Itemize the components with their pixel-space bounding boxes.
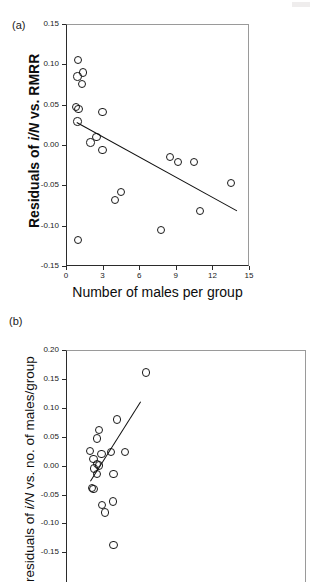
data-point bbox=[74, 105, 82, 113]
panel-a-yticklabel-1: 0.10 bbox=[30, 60, 59, 68]
panel-a-xtick-4 bbox=[212, 266, 213, 270]
panel-b-ytick-7 bbox=[62, 552, 66, 553]
panel-a-xtick-2 bbox=[139, 266, 140, 270]
panel-a-ytick-3 bbox=[62, 145, 66, 146]
data-point bbox=[117, 188, 125, 196]
panel-a-ytick-4 bbox=[62, 185, 66, 186]
panel-a-xtick-0 bbox=[66, 266, 67, 270]
panel-b-ytick-4 bbox=[62, 466, 66, 467]
panel-a-xticklabel-0: 0 bbox=[56, 272, 76, 280]
panel-a-ytick-0 bbox=[62, 24, 66, 25]
panel-b-yticklabel-3: 0.05 bbox=[30, 433, 59, 441]
panel-a-label: (a) bbox=[12, 19, 25, 31]
figure-container: (a) Residuals of i/N vs. RMRR 0.15 0.10 … bbox=[0, 0, 319, 582]
panel-b-ytick-3 bbox=[62, 437, 66, 438]
panel-b-ytick-5 bbox=[62, 495, 66, 496]
panel-b: (b) residuals of i/N vs. no. of males/gr… bbox=[0, 300, 319, 582]
data-point bbox=[227, 179, 235, 187]
panel-a-xtick-3 bbox=[176, 266, 177, 270]
panel-a-xticklabel-1: 3 bbox=[93, 272, 113, 280]
data-point bbox=[113, 415, 121, 423]
data-point bbox=[74, 56, 82, 64]
panel-a-xtick-5 bbox=[249, 266, 250, 270]
data-point bbox=[98, 108, 106, 116]
panel-a-yticklabel-4: -0.05 bbox=[28, 181, 59, 189]
panel-a-yticklabel-5: -0.10 bbox=[28, 222, 59, 230]
data-point bbox=[79, 68, 87, 76]
panel-a-xticklabel-4: 12 bbox=[202, 272, 222, 280]
data-point bbox=[93, 434, 101, 442]
panel-a-yticklabel-3: 0.00 bbox=[30, 141, 59, 149]
data-point bbox=[98, 146, 106, 154]
panel-a-yticklabel-2: 0.05 bbox=[30, 101, 59, 109]
panel-b-yticklabel-0: 0.20 bbox=[30, 346, 59, 354]
panel-b-yticklabel-2: 0.10 bbox=[30, 404, 59, 412]
panel-b-yticklabel-4: 0.00 bbox=[30, 462, 59, 470]
panel-a-xtick-1 bbox=[103, 266, 104, 270]
panel-b-label: (b) bbox=[9, 315, 22, 327]
shared-x-axis-title: Number of males per group bbox=[66, 284, 249, 300]
data-point bbox=[95, 426, 103, 434]
panel-a-xticklabel-3: 9 bbox=[166, 272, 186, 280]
panel-b-yticklabel-5: -0.05 bbox=[28, 491, 59, 499]
panel-b-yticklabel-6: -0.10 bbox=[28, 519, 59, 527]
data-point bbox=[166, 153, 174, 161]
panel-b-ytick-0 bbox=[62, 350, 66, 351]
panel-b-yticklabel-7: -0.15 bbox=[28, 548, 59, 556]
data-point bbox=[121, 448, 129, 456]
panel-b-ytick-2 bbox=[62, 408, 66, 409]
panel-a: (a) Residuals of i/N vs. RMRR 0.15 0.10 … bbox=[0, 0, 319, 300]
panel-a-ytick-2 bbox=[62, 105, 66, 106]
panel-a-ytick-1 bbox=[62, 64, 66, 65]
panel-a-xticklabel-5: 15 bbox=[239, 272, 259, 280]
panel-a-ytick-5 bbox=[62, 226, 66, 227]
panel-a-yticklabel-0: 0.15 bbox=[30, 20, 59, 28]
data-point bbox=[111, 196, 119, 204]
data-point bbox=[101, 508, 109, 516]
data-point bbox=[109, 497, 117, 505]
panel-b-ytick-1 bbox=[62, 379, 66, 380]
panel-a-xticklabel-2: 6 bbox=[129, 272, 149, 280]
panel-b-ytick-6 bbox=[62, 523, 66, 524]
data-point bbox=[142, 368, 150, 376]
panel-a-yticklabel-6: -0.15 bbox=[28, 262, 59, 270]
data-point bbox=[109, 470, 117, 478]
panel-b-yticklabel-1: 0.15 bbox=[30, 375, 59, 383]
panel-a-y-title-italic: i/N bbox=[26, 123, 42, 141]
